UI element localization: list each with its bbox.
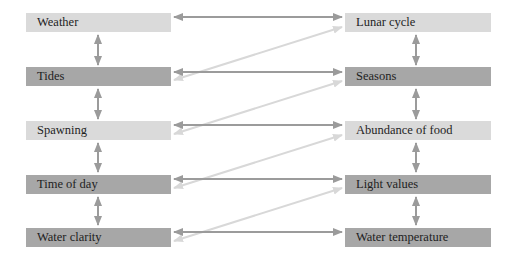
factor-box-weather: Weather bbox=[26, 13, 171, 32]
factor-box-light-values: Light values bbox=[345, 175, 491, 194]
factor-box-spawning: Spawning bbox=[26, 121, 171, 140]
diagonal-arrow-spawning-seasons bbox=[174, 81, 342, 134]
factor-box-water-temperature: Water temperature bbox=[345, 228, 491, 247]
factor-box-time-of-day: Time of day bbox=[26, 175, 171, 194]
factor-box-water-clarity: Water clarity bbox=[26, 228, 171, 247]
diagonal-arrow-clarity-light bbox=[174, 188, 342, 241]
factor-box-lunar-cycle: Lunar cycle bbox=[345, 13, 491, 32]
diagonal-arrow-timeofday-food bbox=[174, 135, 342, 188]
factor-box-tides: Tides bbox=[26, 67, 171, 86]
factor-box-abundance-of-food: Abundance of food bbox=[345, 121, 491, 140]
factor-box-seasons: Seasons bbox=[345, 67, 491, 86]
